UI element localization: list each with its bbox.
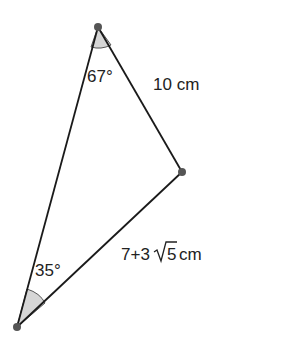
side-length-bottom: 7+3 5 cm <box>121 242 202 264</box>
triangle-diagram: 67° 35° 10 cm 7+3 5 cm <box>0 0 292 349</box>
bottom-side-radicand: 5 <box>167 245 176 264</box>
vertex-bottom-left <box>13 323 21 331</box>
side-left <box>17 27 98 327</box>
top-angle-label: 67° <box>87 67 113 86</box>
side-length-top-right: 10 cm <box>153 75 199 94</box>
bottom-side-unit: cm <box>179 245 202 264</box>
vertex-right <box>178 168 186 176</box>
vertex-top <box>94 23 102 31</box>
bottom-side-prefix: 7+3 <box>121 245 150 264</box>
bottom-angle-label: 35° <box>35 261 61 280</box>
side-top-right <box>98 27 182 172</box>
